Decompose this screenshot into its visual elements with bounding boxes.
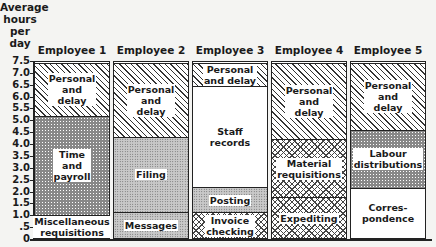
bar-segment: Personal and delay: [351, 63, 425, 130]
y-tick-label: 1.5: [0, 198, 30, 208]
y-tick-label: 7.5: [0, 56, 30, 66]
segment-label: Personal and delay: [285, 85, 334, 118]
bar-segment: Time and payroll: [35, 116, 109, 215]
bar-segment: Personal and delay: [272, 63, 346, 139]
segment-label: Posting: [209, 195, 252, 206]
bar-segment: Filing: [114, 137, 188, 213]
y-tick-label: 6.0: [0, 92, 30, 102]
employee-column-title: Employee 5: [350, 44, 426, 56]
bar-segment: Messages: [114, 212, 188, 238]
y-tick-label: .5: [0, 222, 30, 232]
y-tick-label: 5.0: [0, 115, 30, 125]
x-axis-baseline: [30, 239, 432, 241]
y-tick-label: 6.5: [0, 80, 30, 90]
segment-label: Expediting: [279, 213, 338, 224]
segment-label: Time and payroll: [53, 149, 92, 182]
stacked-bar: Invoice checkingPostingStaff recordsPers…: [192, 61, 268, 239]
y-tick-label: 3.5: [0, 151, 30, 161]
bar-segment: Staff records: [193, 86, 267, 186]
bar-segment: Material requisitions: [272, 139, 346, 197]
bar-segment: Personal and delay: [114, 63, 188, 137]
bar-segment: Expediting: [272, 197, 346, 238]
y-tick-label: 0: [0, 234, 30, 244]
segment-label: Miscellaneous requisitions: [33, 216, 111, 238]
segment-label: Filing: [135, 169, 167, 180]
bar-segment: Invoice checking: [193, 212, 267, 238]
segment-label: Personal and delay: [364, 80, 413, 113]
employee-column-title: Employee 1: [34, 44, 110, 56]
segment-label: Messages: [124, 220, 179, 231]
bar-segment: Corres- pondence: [351, 188, 425, 238]
y-tick-label: 2.5: [0, 175, 30, 185]
bar-segment: Posting: [193, 187, 267, 213]
segment-label: Material requisitions: [276, 158, 342, 180]
employee-column-title: Employee 3: [192, 44, 268, 56]
segment-label: Personal and delay: [48, 73, 97, 106]
employee-column-title: Employee 4: [271, 44, 347, 56]
y-tick-label: 1.0: [0, 210, 30, 220]
bar-segment: Personal and delay: [35, 63, 109, 116]
y-tick-label: 7.0: [0, 68, 30, 78]
y-tick-label: 4.5: [0, 127, 30, 137]
segment-label: Invoice checking: [205, 215, 255, 237]
y-tick-label: 2.0: [0, 187, 30, 197]
segment-label: Corres- pondence: [361, 202, 415, 224]
segment-label: Personal and delay: [203, 64, 257, 86]
y-tick-label: 4.0: [0, 139, 30, 149]
bar-segment: Labour distributions: [351, 130, 425, 188]
stacked-bar: Corres- pondenceLabour distributionsPers…: [350, 61, 426, 239]
stacked-bar: ExpeditingMaterial requisitionsPersonal …: [271, 61, 347, 239]
y-axis-title: Average hours per day: [0, 1, 40, 49]
segment-label: Labour distributions: [353, 148, 424, 170]
y-tick-label: 3.0: [0, 163, 30, 173]
employee-column-title: Employee 2: [113, 44, 189, 56]
y-tick-label: 5.5: [0, 103, 30, 113]
stacked-bar: Miscellaneous requisitionsTime and payro…: [34, 61, 110, 239]
stacked-bar: MessagesFilingPersonal and delay: [113, 61, 189, 239]
bar-segment: Miscellaneous requisitions: [35, 215, 109, 238]
bar-segment: Personal and delay: [193, 63, 267, 86]
segment-label: Personal and delay: [127, 84, 176, 117]
segment-label: Staff records: [209, 126, 251, 148]
